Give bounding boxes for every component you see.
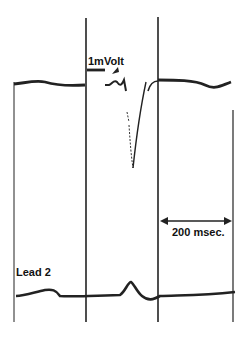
arrow-right-icon (224, 217, 232, 225)
upper-trace-complex (105, 80, 126, 91)
arrowhead-icon (112, 67, 119, 74)
lead2-trace (16, 282, 235, 299)
time-scale-label: 200 msec. (172, 226, 225, 238)
upper-trace-left (14, 81, 85, 85)
deflection-left (127, 112, 133, 168)
arrow-left-icon (160, 217, 168, 225)
lead-label: Lead 2 (16, 266, 51, 278)
deflection-right (133, 82, 146, 168)
upper-trace-return (148, 81, 158, 91)
ecg-chart (0, 0, 252, 337)
calibration-label: 1mVolt (88, 55, 124, 67)
upper-trace-right (158, 80, 231, 87)
